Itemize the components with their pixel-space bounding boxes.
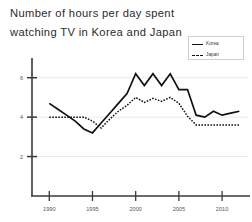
- plot-area: 246 19901995200020052010: [0, 0, 252, 222]
- x-axis-tick-label: 2005: [173, 206, 185, 212]
- x-axis-tick-label: 2010: [216, 206, 228, 212]
- y-axis-tick-label: 2: [20, 154, 23, 160]
- series-line-korea: [49, 74, 239, 133]
- x-axis-tick-label: 1995: [86, 206, 98, 212]
- x-axis-tick-label: 2000: [129, 206, 141, 212]
- chart-figure: Number of hours per day spent watching T…: [0, 0, 252, 222]
- y-axis: 246: [20, 58, 37, 196]
- x-axis-tick-label: 1990: [43, 206, 55, 212]
- y-axis-tick-label: 6: [20, 75, 23, 81]
- y-axis-tick-label: 4: [20, 114, 23, 120]
- x-axis: 19901995200020052010: [31, 191, 250, 212]
